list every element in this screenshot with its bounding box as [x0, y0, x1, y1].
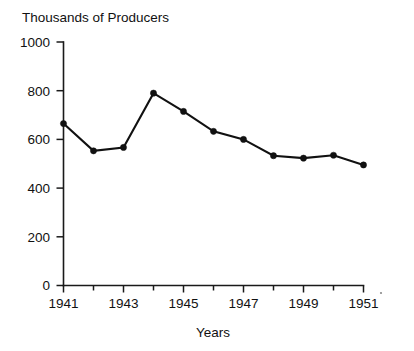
y-tick-label: 400 [27, 181, 50, 196]
y-tick-label: 0 [42, 278, 50, 293]
y-tick-label: 800 [27, 84, 50, 99]
data-point-marker [150, 90, 156, 96]
data-point-marker [210, 128, 216, 134]
data-point-marker [180, 108, 186, 114]
x-tick-label: 1947 [228, 296, 258, 311]
line-chart: Thousands of Producers 02004006008001000… [0, 0, 414, 351]
data-point-marker [270, 153, 276, 159]
y-tick-label: 1000 [20, 35, 50, 50]
chart-title: Thousands of Producers [22, 10, 169, 25]
data-point-marker [300, 155, 306, 161]
x-tick-label: 1941 [48, 296, 78, 311]
x-tick-label: 1949 [288, 296, 318, 311]
data-point-marker [60, 120, 66, 126]
x-tick-label: 1951 [348, 296, 378, 311]
chart-canvas: Thousands of Producers 02004006008001000… [0, 0, 414, 351]
data-point-marker [90, 148, 96, 154]
data-point-marker [330, 152, 336, 158]
y-tick-label: 200 [27, 230, 50, 245]
x-tick-label: 1945 [168, 296, 198, 311]
x-tick-label: 1943 [108, 296, 138, 311]
data-point-marker [360, 162, 366, 168]
data-point-marker [120, 144, 126, 150]
data-point-marker [240, 136, 246, 142]
x-axis-title: Years [196, 325, 230, 340]
y-tick-label: 600 [27, 132, 50, 147]
scan-artifact-speck [380, 292, 382, 294]
